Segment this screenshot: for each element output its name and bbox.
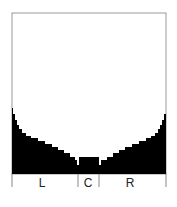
section-label-left: L (32, 176, 52, 190)
section-label-right: R (120, 176, 140, 190)
section-label-center: C (78, 176, 98, 190)
